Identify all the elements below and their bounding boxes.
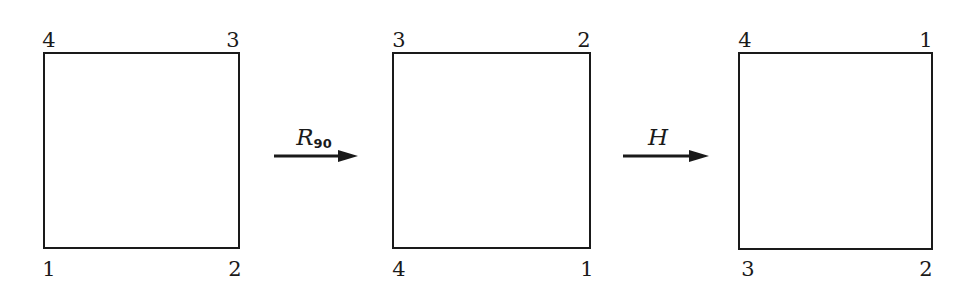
corner-label-bottom-left: 1 — [42, 259, 55, 280]
flip-arrow-label: H — [648, 124, 668, 150]
corner-label-bottom-left: 4 — [392, 259, 405, 280]
right-arrow-icon — [621, 148, 711, 164]
corner-label-top-right: 1 — [919, 30, 932, 51]
corner-label-top-left: 3 — [392, 30, 405, 51]
corner-label-bottom-right: 2 — [919, 259, 932, 280]
rotation-arrow-label: R90 — [296, 124, 331, 151]
corner-label-top-right: 3 — [226, 30, 239, 51]
square-after-rotation — [392, 52, 591, 249]
corner-label-bottom-right: 2 — [228, 259, 241, 280]
corner-label-top-left: 4 — [42, 30, 55, 51]
rotation-label-main: R — [296, 124, 313, 150]
square-initial — [43, 52, 240, 249]
corner-label-top-right: 2 — [577, 30, 590, 51]
corner-label-top-left: 4 — [738, 30, 751, 51]
corner-label-bottom-left: 3 — [741, 259, 754, 280]
flip-label-main: H — [648, 124, 668, 150]
square-after-flip — [738, 52, 933, 250]
right-arrow-icon — [272, 148, 360, 164]
corner-label-bottom-right: 1 — [580, 259, 593, 280]
